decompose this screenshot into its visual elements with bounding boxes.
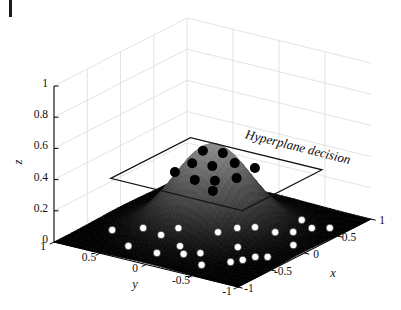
inside-class-points-marker (218, 148, 228, 158)
y-axis-title: y (130, 277, 138, 291)
y-tick-mark (234, 287, 238, 289)
outside-class-points-marker (308, 224, 315, 231)
y-tick-label--1: -1 (222, 285, 232, 297)
outside-class-points-marker (125, 242, 132, 249)
inside-class-points-marker (232, 173, 242, 183)
outside-class-points-marker (109, 226, 116, 233)
y-tick-mark (142, 265, 146, 267)
outside-class-points-marker (198, 261, 205, 268)
outside-class-points-marker (290, 228, 297, 235)
inside-class-points-marker (187, 158, 197, 168)
z-tick-label-0_4: 0.4 (34, 171, 49, 183)
y-tick-mark (96, 253, 100, 255)
wall-grid-z (54, 80, 371, 148)
inside-class-points-marker (190, 175, 200, 185)
surface-plot: 0 0.2 0.4 0.6 0.8 1 1 0.5 0 -0.5 -1 1 0.… (0, 0, 401, 310)
z-tick-label-0_2: 0.2 (34, 202, 49, 214)
outside-class-points-marker (176, 242, 183, 249)
outside-class-points-marker (272, 229, 279, 236)
outside-class-points-marker (239, 256, 246, 263)
y-tick-label-0_5: 0.5 (82, 251, 97, 263)
outside-class-points-marker (298, 216, 305, 223)
y-tick-mark (50, 242, 54, 244)
outside-class-points-marker (157, 231, 164, 238)
inside-class-points-marker (170, 167, 180, 177)
outside-class-points-marker (234, 243, 241, 250)
z-tick-label-0_6: 0.6 (34, 139, 49, 151)
inside-class-points-marker (230, 158, 240, 168)
outside-class-points-marker (214, 229, 221, 236)
inside-class-points-marker (210, 176, 220, 186)
inside-class-points-marker (207, 161, 217, 171)
z-tick-label-0_8: 0.8 (34, 108, 49, 120)
x-tick-label--0_5: -0.5 (274, 265, 292, 277)
outside-class-points-marker (290, 241, 297, 248)
outside-class-points-marker (227, 258, 234, 265)
wall-grid-z (54, 18, 371, 86)
outside-class-points-marker (251, 224, 258, 231)
inside-class-points-marker (250, 163, 260, 173)
outside-class-points-marker (140, 224, 147, 231)
outside-class-points-marker (326, 224, 333, 231)
outside-class-points-marker (197, 249, 204, 256)
outside-class-points-marker (153, 249, 160, 256)
x-tick-label-0: 0 (313, 248, 319, 260)
outside-class-points-marker (234, 224, 241, 231)
x-tick-label-0_5: 0.5 (342, 231, 357, 243)
outside-class-points-marker (180, 250, 187, 257)
wall-grid-z (54, 49, 371, 117)
x-tick-mark (305, 253, 310, 254)
x-tick-mark (371, 219, 376, 220)
z-tick-label-1: 1 (42, 77, 48, 89)
x-axis-title: x (329, 266, 336, 280)
y-tick-label-1: 1 (40, 240, 46, 252)
z-axis-title: z (11, 159, 25, 165)
y-tick-label--0_5: -0.5 (172, 274, 190, 286)
inside-class-points-marker (208, 186, 218, 196)
x-tick-label-1: 1 (379, 214, 385, 226)
outside-class-points-marker (175, 224, 182, 231)
figure: 0 0.2 0.4 0.6 0.8 1 1 0.5 0 -0.5 -1 1 0.… (0, 0, 401, 310)
outside-class-points-marker (264, 253, 271, 260)
outside-class-points-marker (252, 253, 259, 260)
y-tick-label-0: 0 (132, 262, 138, 274)
x-tick-mark (238, 287, 243, 288)
inside-class-points-marker (198, 146, 208, 156)
x-tick-label--1: -1 (244, 282, 254, 294)
